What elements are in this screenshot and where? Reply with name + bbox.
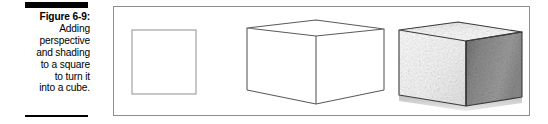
caption-line-4: to a square (0, 59, 90, 71)
caption-line-label: Figure 6-9: (0, 11, 90, 23)
cube-top-face-edges (247, 20, 384, 36)
cube-front-face (399, 30, 466, 106)
illustration-panel (113, 6, 530, 116)
caption-line-2: perspective (0, 35, 90, 47)
cube-right-face (466, 32, 522, 106)
caption-line-6: into a cube. (0, 82, 90, 94)
figure-caption-block: Figure 6-9: Adding perspective and shadi… (0, 0, 104, 124)
square-outline (132, 30, 196, 94)
illustration-artwork (114, 7, 529, 115)
figure-caption-text: Figure 6-9: Adding perspective and shadi… (0, 11, 90, 94)
stage-perspective-cube (247, 20, 384, 104)
figure-container: Figure 6-9: Adding perspective and shadi… (0, 0, 548, 124)
stage-shaded-cube (399, 22, 522, 111)
caption-line-3: and shading (0, 47, 90, 59)
caption-line-5: to turn it (0, 71, 90, 83)
caption-rule-bottom (25, 115, 88, 117)
caption-line-1: Adding (0, 23, 90, 35)
stage-flat-square (132, 30, 196, 94)
caption-rule-top (25, 2, 88, 8)
